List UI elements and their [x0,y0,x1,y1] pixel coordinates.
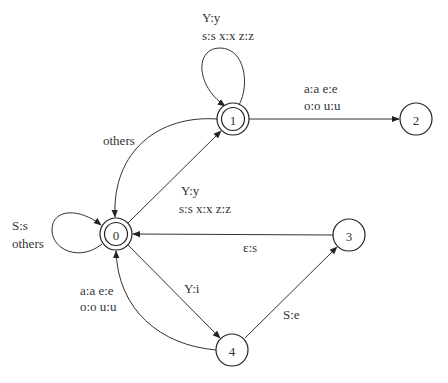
edge-0-4 [128,245,220,338]
label-1-2-line1: a:a e:e [304,81,338,97]
edge-3-0 [133,234,333,235]
diagram-graphics: 0 1 2 3 4 [0,0,448,383]
label-0-0-line1: S:s [12,218,28,234]
label-1-1-line1: Y:y [202,10,220,26]
state-label-2: 2 [413,113,420,128]
label-4-0-line1: a:a e:e [80,283,114,299]
state-label-3: 3 [346,229,353,244]
label-4-0-line2: o:o u:u [80,299,116,315]
label-0-0-line2: others [12,236,44,252]
edge-0-0 [52,213,102,253]
edge-4-0 [116,251,216,350]
state-label-0: 0 [113,228,120,243]
fst-diagram: 0 1 2 3 4 Y:y s:s x:x z:z a:a e:e o:o u:… [0,0,448,383]
state-label-4: 4 [229,344,236,359]
state-label-1: 1 [230,113,237,128]
label-0-1-line2: s:s x:x z:z [179,201,231,217]
edge-1-1 [202,48,245,106]
label-1-1-line2: s:s x:x z:z [202,28,254,44]
label-3-0: ε:s [243,240,257,256]
label-4-3: S:e [283,307,300,323]
label-0-4: Y:i [184,281,199,297]
label-0-1-line1: Y:y [181,183,199,199]
edge-4-3 [245,247,337,338]
label-1-0: others [103,133,135,149]
label-1-2-line2: o:o u:u [304,98,340,114]
